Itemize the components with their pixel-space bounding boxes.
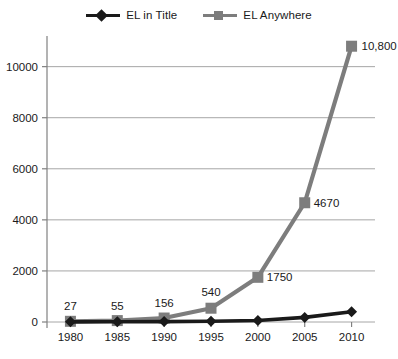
x-tick-label: 2010 <box>339 331 365 343</box>
data-point-marker <box>299 312 310 323</box>
y-tick-label: 6000 <box>12 163 38 175</box>
series-el-anywhere <box>65 41 357 327</box>
data-point-marker <box>299 197 310 208</box>
x-tick-label: 1980 <box>58 331 84 343</box>
y-axis-ticks <box>42 67 47 322</box>
data-point-label: 55 <box>111 300 124 312</box>
data-point-label: 4670 <box>314 197 340 209</box>
data-point-marker <box>206 316 217 327</box>
data-labels-el-anywhere: 27551565401750467010,800 <box>64 40 397 312</box>
data-point-marker <box>206 303 217 314</box>
x-tick-label: 2000 <box>245 331 271 343</box>
data-point-marker <box>346 306 357 317</box>
chart-container: EL in Title EL Anywhere 0200040006000800… <box>0 0 398 359</box>
x-axis-tick-labels: 1980198519901995200020052010 <box>58 331 365 343</box>
data-point-label: 27 <box>64 300 77 312</box>
x-tick-label: 2005 <box>292 331 318 343</box>
gridlines <box>47 67 375 322</box>
y-tick-label: 8000 <box>12 112 38 124</box>
y-tick-label: 0 <box>32 316 38 328</box>
plot-area: 0200040006000800010000 19801985199019952… <box>0 0 398 359</box>
data-point-label: 1750 <box>267 271 293 283</box>
x-tick-label: 1995 <box>198 331 224 343</box>
y-axis-tick-labels: 0200040006000800010000 <box>6 61 38 328</box>
data-point-marker <box>252 272 263 283</box>
data-point-marker <box>346 41 357 52</box>
data-point-marker <box>252 315 263 326</box>
x-tick-label: 1990 <box>151 331 177 343</box>
data-point-label: 156 <box>155 297 174 309</box>
y-tick-label: 2000 <box>12 265 38 277</box>
data-point-label: 540 <box>201 286 220 298</box>
y-tick-label: 4000 <box>12 214 38 226</box>
data-point-label: 10,800 <box>362 40 397 52</box>
x-tick-label: 1985 <box>104 331 130 343</box>
y-tick-label: 10000 <box>6 61 38 73</box>
